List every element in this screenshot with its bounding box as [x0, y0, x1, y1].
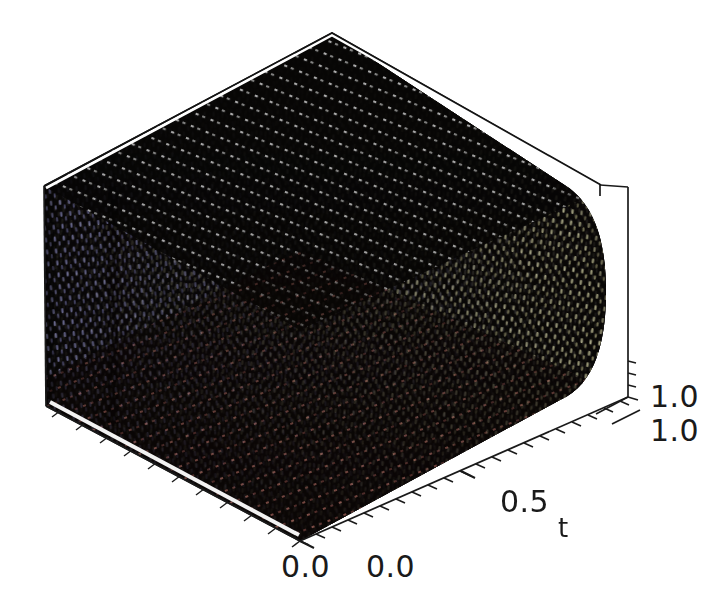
t-axis-tick-label-05: 0.5: [500, 487, 549, 517]
surface-plot-canvas: [0, 0, 725, 614]
z-axis-tick-label-1: 1.0: [650, 382, 699, 412]
t-axis-tick-label-0: 0.0: [366, 552, 415, 582]
x-axis-tick-label-0: 0.0: [281, 552, 330, 582]
t-axis-name-label: t: [558, 515, 569, 541]
plot-figure: 1.0 1.0 0.5 t 0.0 0.0: [0, 0, 725, 614]
x-axis-tick-label-1: 1.0: [650, 416, 699, 446]
